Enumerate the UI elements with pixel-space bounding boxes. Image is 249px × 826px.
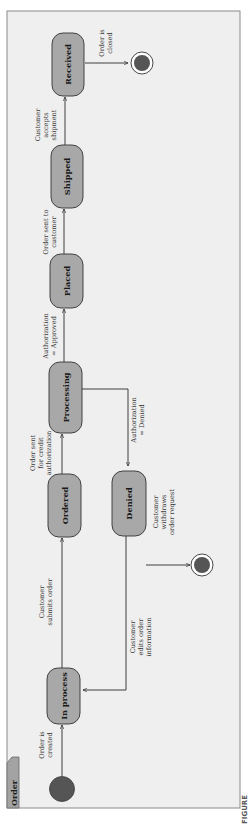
svg-text:Order sent: Order sent: [29, 435, 37, 471]
state-in-process: In process: [47, 668, 80, 724]
svg-text:information: information: [145, 617, 153, 657]
svg-text:Order is: Order is: [38, 731, 46, 759]
svg-text:customer: customer: [50, 216, 58, 248]
state-label: Processing: [61, 372, 71, 422]
edge-label-authorization-approved: Authorization = Approved: [42, 312, 58, 359]
svg-text:withdraws: withdraws: [160, 494, 168, 530]
state-diagram: Order In process Ordered Processing: [0, 0, 249, 826]
state-received: Received: [52, 33, 84, 96]
svg-text:order request: order request: [168, 489, 176, 535]
edge-label-customer-edits-order: Customer edits order information: [129, 617, 153, 657]
svg-text:Order sent to: Order sent to: [42, 210, 50, 255]
frame-tab: Order: [7, 757, 19, 808]
edge-label-customer-accepts-shipment: Customer accepts shipment: [34, 108, 58, 141]
svg-text:Order is: Order is: [98, 29, 106, 57]
state-label: Placed: [62, 265, 72, 296]
svg-text:= Denied: = Denied: [138, 404, 146, 436]
state-label: Received: [63, 44, 73, 85]
edge-label-order-created: Order is created: [38, 731, 54, 759]
state-denied: Denied: [112, 471, 146, 536]
svg-text:submits order: submits order: [46, 578, 54, 626]
svg-text:Customer: Customer: [129, 620, 137, 653]
state-label: Shipped: [62, 158, 72, 196]
final-state-denied: [191, 554, 213, 576]
state-processing: Processing: [49, 362, 82, 433]
svg-text:for credit: for credit: [37, 437, 45, 469]
frame-tab-label: Order: [9, 779, 19, 806]
state-label: Denied: [124, 487, 134, 520]
svg-text:closed: closed: [106, 32, 114, 54]
svg-text:Authorization: Authorization: [42, 312, 50, 359]
svg-text:authorization: authorization: [45, 430, 53, 475]
state-ordered: Ordered: [48, 474, 81, 537]
edge-label-order-closed: Order is closed: [98, 29, 114, 57]
svg-text:Authorization: Authorization: [130, 396, 138, 443]
initial-state-node: [50, 777, 75, 802]
svg-text:edits order: edits order: [137, 618, 145, 656]
svg-text:Customer: Customer: [152, 495, 160, 528]
state-shipped: Shipped: [51, 145, 83, 208]
svg-text:shipment: shipment: [50, 109, 58, 140]
svg-text:Customer: Customer: [34, 108, 42, 141]
figure-caption-partial: FIGURE: [241, 795, 249, 824]
state-placed: Placed: [50, 254, 83, 308]
svg-text:= Approved: = Approved: [50, 315, 58, 356]
svg-text:Customer: Customer: [38, 585, 46, 618]
final-state-received: [131, 52, 153, 74]
state-label: In process: [59, 672, 69, 720]
svg-text:accepts: accepts: [42, 112, 50, 138]
state-label: Ordered: [60, 486, 70, 524]
svg-text:created: created: [46, 731, 54, 757]
